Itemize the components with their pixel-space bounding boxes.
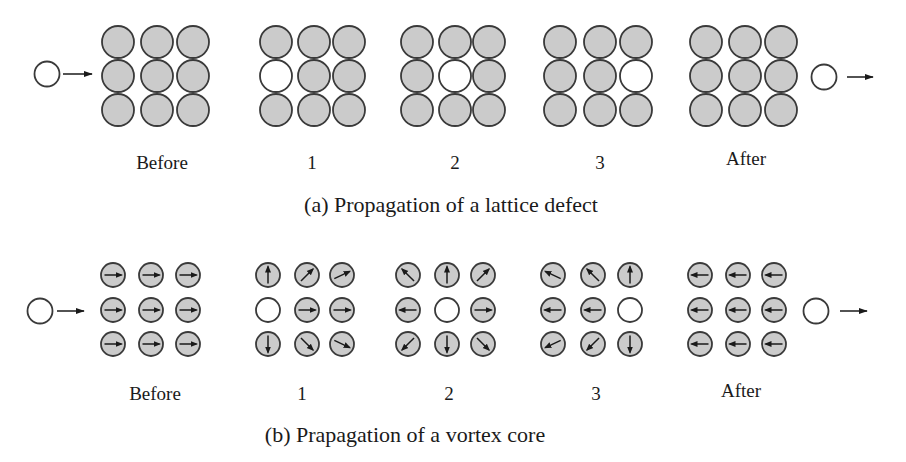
lattice-atom [690, 26, 722, 58]
lattice-atom [333, 60, 365, 92]
lattice-atom [584, 94, 616, 126]
lattice-atom [298, 26, 330, 58]
lattice-atom [177, 60, 209, 92]
figure: Before 1 2 3 After (a) Propagation of a … [0, 0, 906, 462]
lattice-atom [690, 94, 722, 126]
frame-before-a [102, 26, 209, 126]
lattice-atom [765, 94, 797, 126]
frame-label-1-b: 1 [297, 383, 307, 405]
panel-b-vortex-core [28, 263, 868, 356]
lattice-atom [765, 26, 797, 58]
lattice-atom [473, 60, 505, 92]
incoming-defect-atom [35, 62, 60, 87]
vortex-core-site [618, 298, 642, 322]
lattice-atom [102, 60, 134, 92]
lattice-atom [141, 60, 173, 92]
lattice-atom [298, 94, 330, 126]
lattice-atom [177, 26, 209, 58]
lattice-atom [473, 94, 505, 126]
lattice-atom [333, 26, 365, 58]
frame-label-before-a: Before [136, 152, 188, 174]
frame-label-2-a: 2 [450, 152, 460, 174]
lattice-atom [620, 94, 652, 126]
lattice-atom [298, 60, 330, 92]
frame-1-a [260, 26, 365, 126]
lattice-atom [141, 26, 173, 58]
frame-label-2-b: 2 [444, 383, 454, 405]
outgoing-defect-atom [812, 65, 837, 90]
lattice-atom [333, 94, 365, 126]
frame-before-b [101, 263, 200, 356]
frame-1-b [256, 263, 354, 356]
lattice-atom [177, 94, 209, 126]
lattice-atom [102, 94, 134, 126]
frame-label-1-a: 1 [307, 152, 317, 174]
lattice-atom [439, 26, 471, 58]
lattice-atom [690, 60, 722, 92]
frame-after-b [688, 263, 786, 356]
vacancy-atom [260, 60, 292, 92]
lattice-atom [260, 94, 292, 126]
vortex-core-site [256, 298, 280, 322]
lattice-atom [584, 60, 616, 92]
lattice-atom [729, 60, 761, 92]
lattice-atom [729, 94, 761, 126]
frame-label-after-a: After [726, 148, 766, 170]
frame-2-a [401, 26, 505, 126]
vortex-core-site [435, 298, 459, 322]
lattice-atom [401, 94, 433, 126]
lattice-atom [102, 26, 134, 58]
vacancy-atom [620, 60, 652, 92]
frame-label-before-b: Before [129, 383, 181, 405]
frame-label-3-b: 3 [591, 383, 601, 405]
frame-label-3-a: 3 [595, 152, 605, 174]
caption-panel-b: (b) Prapagation of a vortex core [265, 422, 545, 448]
lattice-atom [401, 26, 433, 58]
lattice-atom [141, 94, 173, 126]
caption-panel-a: (a) Propagation of a lattice defect [304, 192, 598, 218]
vacancy-atom [439, 60, 471, 92]
lattice-atom [544, 94, 576, 126]
lattice-atom [439, 94, 471, 126]
frame-after-a [690, 26, 797, 126]
lattice-atom [544, 26, 576, 58]
lattice-atom [584, 26, 616, 58]
frame-3-b [541, 263, 642, 356]
frame-2-b [396, 263, 495, 356]
lattice-atom [544, 60, 576, 92]
frame-label-after-b: After [721, 380, 761, 402]
lattice-atom [729, 26, 761, 58]
lattice-atom [473, 26, 505, 58]
frame-3-a [544, 26, 652, 126]
lattice-atom [260, 26, 292, 58]
panel-a-lattice-defect [35, 26, 874, 126]
lattice-atom [620, 26, 652, 58]
lattice-atom [401, 60, 433, 92]
outgoing-vortex-core [804, 299, 829, 324]
incoming-vortex-core [28, 299, 53, 324]
lattice-atom [765, 60, 797, 92]
